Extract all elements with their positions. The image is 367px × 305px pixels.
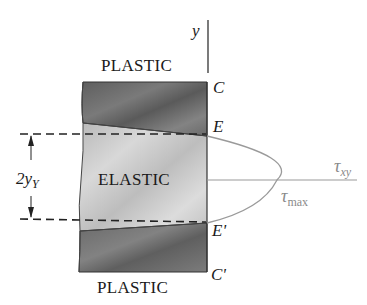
elastic-core-dimension-label: 2yY	[16, 169, 40, 191]
shear-stress-elastoplastic-diagram: y PLASTIC ELASTIC 2yY τxy τmax C E E' C'…	[0, 0, 367, 305]
arrow-down-icon	[28, 207, 34, 218]
point-c-prime-label: C'	[211, 265, 226, 284]
top-plastic-label: PLASTIC	[101, 56, 172, 75]
point-e-label: E	[212, 117, 224, 136]
arrow-up-icon	[28, 135, 34, 146]
point-c-label: C	[213, 78, 225, 97]
y-axis-label: y	[190, 21, 200, 40]
tau-xy-axis-label: τxy	[334, 156, 352, 179]
point-e-prime-label: E'	[211, 221, 226, 240]
bottom-plastic-label: PLASTIC	[97, 278, 168, 297]
elastic-label: ELASTIC	[98, 170, 170, 189]
tau-max-label: τmax	[281, 186, 308, 209]
